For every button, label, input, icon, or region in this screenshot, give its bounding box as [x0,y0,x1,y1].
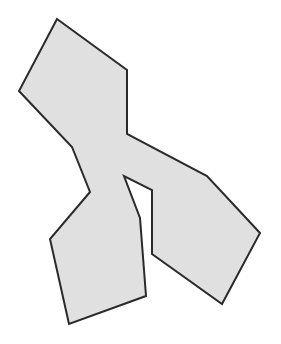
canvas [0,0,281,344]
y-shaped-polygon [19,19,260,324]
